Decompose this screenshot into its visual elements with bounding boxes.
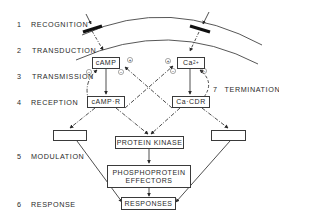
stage-label-termination: TERMINATION	[225, 85, 279, 94]
camp-box: cAMP	[92, 57, 120, 69]
svg-text:−: −	[203, 69, 206, 74]
protein-kinase-box: PROTEIN KINASE	[115, 136, 184, 149]
right-modulator-box	[211, 130, 246, 141]
phosphoprotein-effectors-box: PHOSPHOPROTEIN EFFECTORS	[107, 165, 191, 188]
stage-label-transmission: TRANSMISSION	[32, 72, 94, 81]
calcium-box: Ca2+	[177, 57, 205, 69]
stage-label-transduction: TRANSDUCTION	[32, 46, 96, 55]
ca-cdr-box: Ca·CDR	[172, 96, 210, 108]
camp-receptor-box: cAMP·R	[87, 96, 125, 108]
stage-label-response: RESPONSE	[31, 200, 76, 209]
svg-text:−: −	[172, 69, 175, 74]
stage-7-termination: 7TERMINATION	[213, 85, 279, 94]
responses-box: RESPONSES	[121, 197, 176, 210]
outer-membrane	[82, 17, 262, 45]
left-modulator-box	[53, 130, 87, 141]
svg-text:+: +	[167, 59, 170, 64]
stage-label-reception: RECEPTION	[31, 98, 78, 107]
stage-label-recognition: RECOGNITION	[31, 20, 88, 29]
svg-text:+: +	[129, 58, 132, 63]
stage-label-modulation: MODULATION	[31, 152, 84, 161]
receptor-right	[190, 26, 210, 32]
svg-text:−: −	[120, 70, 123, 75]
